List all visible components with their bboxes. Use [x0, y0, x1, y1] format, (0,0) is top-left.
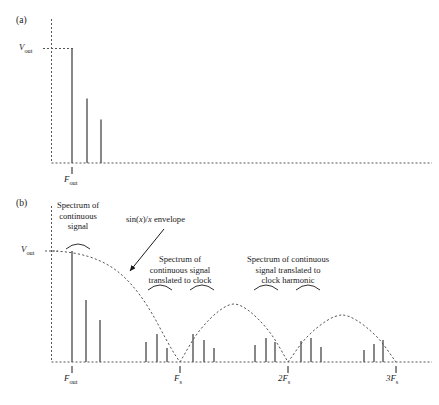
panel-a-xtick-sub: out [69, 179, 77, 186]
annotation-translated-clock-line1: Spectrum of [130, 254, 230, 265]
annotation-spectrum-continuous-line1: Spectrum of [48, 200, 108, 211]
panel-a-xtick-label-fout: Fout [64, 174, 77, 186]
xtick-3fs-sub: s [396, 378, 398, 385]
envelope-text-pre: sin( [126, 214, 139, 224]
annotation-spectrum-continuous-line3: signal [48, 221, 108, 232]
panel-b-xtick-label-3fs: 3Fs [386, 373, 398, 385]
xtick-fout-sub: out [69, 378, 77, 385]
panel-a-vout-label: Vout [19, 42, 32, 54]
envelope-text-post: envelope [152, 214, 185, 224]
panel-b-vout-label: Vout [21, 244, 34, 256]
panel-label-b: (b) [16, 198, 27, 208]
xtick-fs-sub: s [179, 378, 181, 385]
panel-b-xtick-label-fs: Fs [174, 373, 182, 385]
annotation-translated-to-clock: Spectrum of continuous signal translated… [130, 254, 230, 286]
figure-dac-spectrum: (a) (b) Vout Vout Fout Fout Fs 2Fs 3Fs S… [0, 0, 439, 405]
annotation-translated-harmonic-line1: Spectrum of continuous [233, 254, 343, 265]
annotation-spectrum-continuous-line2: continuous [48, 211, 108, 222]
annotation-spectrum-continuous: Spectrum of continuous signal [48, 200, 108, 232]
xtick-2fs-sub: s [288, 378, 290, 385]
envelope-second-lobe [180, 304, 288, 362]
panel-b-xtick-label-2fs: 2Fs [278, 373, 290, 385]
annotation-sinc-envelope: sin(x)/x envelope [126, 214, 185, 224]
panel-a-spectral-lines [72, 49, 101, 164]
envelope-third-lobe [288, 315, 396, 362]
brace-spectrum-continuous [66, 244, 90, 249]
annotation-translated-harmonic-line3: clock harmonic [233, 275, 343, 286]
annotation-translated-clock-line2: continuous signal [130, 265, 230, 276]
annotation-translated-harmonic-line2: signal translated to [233, 265, 343, 276]
annotation-translated-clock-line3: translated to clock [130, 275, 230, 286]
panel-b-vout-sub: out [26, 249, 34, 256]
panel-b-xtick-label-fout: Fout [64, 373, 77, 385]
annotation-translated-to-harmonic: Spectrum of continuous signal translated… [233, 254, 343, 286]
panel-a-vout-sub: out [24, 47, 32, 54]
panel-label-a: (a) [16, 15, 27, 25]
